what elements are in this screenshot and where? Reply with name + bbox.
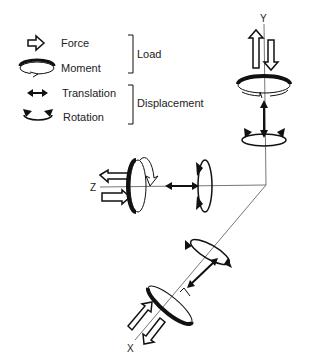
coordinate-diagram: Force Moment Translation Rotation Load D… [0, 0, 322, 362]
z-axis-label: Z [90, 182, 96, 193]
load-bracket [128, 35, 133, 73]
translation-icon [27, 89, 48, 97]
y-translation-icon [260, 100, 268, 138]
y-axis-label: Y [260, 13, 267, 24]
load-group-label: Load [137, 48, 161, 60]
legend-translation-label: Translation [62, 87, 116, 99]
force-arrow-icon [28, 36, 44, 50]
z-moment-icon [128, 158, 158, 212]
x-axis-label: X [127, 343, 134, 354]
y-force-arrows [249, 30, 278, 70]
rotation-icon [23, 109, 53, 120]
legend-rotation-label: Rotation [63, 111, 104, 123]
legend-moment-label: Moment [61, 62, 101, 74]
legend-force-label: Force [61, 37, 89, 49]
z-translation-icon [165, 182, 199, 190]
moment-icon [20, 60, 54, 77]
displacement-group-label: Displacement [137, 97, 204, 109]
x-axis [135, 185, 266, 340]
legend: Force Moment Translation Rotation Load D… [20, 35, 204, 124]
displacement-bracket [128, 85, 133, 124]
y-moment-icon [238, 76, 290, 98]
axes: Y Z X [90, 13, 267, 354]
